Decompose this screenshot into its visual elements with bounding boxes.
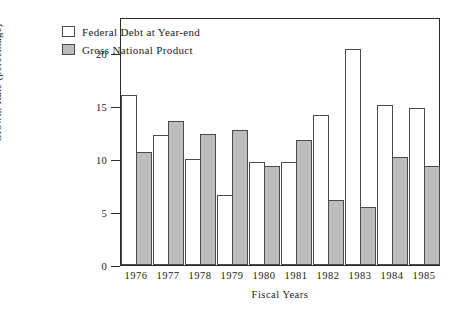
x-axis-tick-labels: 1976197719781979198019811982198319841985 bbox=[120, 270, 440, 286]
legend-item-federal-debt: Federal Debt at Year-end bbox=[62, 24, 200, 39]
bar-federal-debt-1979 bbox=[217, 195, 233, 265]
bar-group-1982 bbox=[313, 19, 344, 265]
bar-federal-debt-1985 bbox=[409, 108, 425, 265]
bar-group-1981 bbox=[281, 19, 312, 265]
x-axis-tick-label-1982: 1982 bbox=[317, 270, 340, 281]
x-axis-tick-label-1981: 1981 bbox=[285, 270, 308, 281]
y-axis-title: Growth Rate (percentage) bbox=[0, 23, 3, 142]
bar-federal-debt-1981 bbox=[281, 162, 297, 265]
x-axis-tick-label-1977: 1977 bbox=[157, 270, 180, 281]
bar-group-1980 bbox=[249, 19, 280, 265]
bar-group-1983 bbox=[345, 19, 376, 265]
x-axis-tick-label-1976: 1976 bbox=[125, 270, 148, 281]
x-axis-tick-label-1978: 1978 bbox=[189, 270, 212, 281]
legend-label-federal-debt: Federal Debt at Year-end bbox=[82, 26, 200, 38]
y-axis-tick-label: 5 bbox=[101, 208, 107, 219]
bar-federal-debt-1977 bbox=[153, 135, 169, 265]
bar-gross-national-product-1980 bbox=[264, 166, 280, 265]
x-axis-tick-label-1985: 1985 bbox=[413, 270, 436, 281]
bar-federal-debt-1984 bbox=[377, 105, 393, 265]
x-axis-tick-label-1983: 1983 bbox=[349, 270, 372, 281]
x-axis-tick-label-1980: 1980 bbox=[253, 270, 276, 281]
y-axis-tick bbox=[111, 107, 120, 108]
x-axis-tick-label-1984: 1984 bbox=[381, 270, 404, 281]
bar-group-1985 bbox=[409, 19, 440, 265]
bar-gross-national-product-1977 bbox=[168, 121, 184, 265]
bar-federal-debt-1978 bbox=[185, 159, 201, 265]
bar-gross-national-product-1978 bbox=[200, 134, 216, 265]
x-axis-title: Fiscal Years bbox=[120, 289, 440, 300]
legend-swatch-open-box-icon bbox=[62, 26, 75, 37]
bar-federal-debt-1982 bbox=[313, 115, 329, 265]
legend-label-gross-national-product: Gross National Product bbox=[82, 44, 193, 56]
y-axis-tick bbox=[111, 266, 120, 267]
bar-federal-debt-1980 bbox=[249, 162, 265, 265]
legend-swatch-filled-box-icon bbox=[62, 44, 75, 55]
bar-gross-national-product-1979 bbox=[232, 130, 248, 265]
bar-gross-national-product-1982 bbox=[328, 200, 344, 265]
x-axis-tick-label-1979: 1979 bbox=[221, 270, 244, 281]
bar-gross-national-product-1983 bbox=[360, 207, 376, 265]
y-axis-tick-label: 10 bbox=[96, 155, 107, 166]
chart-legend: Federal Debt at Year-end Gross National … bbox=[62, 24, 200, 60]
y-axis-tick bbox=[111, 213, 120, 214]
bar-gross-national-product-1976 bbox=[136, 152, 152, 265]
bar-gross-national-product-1981 bbox=[296, 140, 312, 265]
bar-federal-debt-1976 bbox=[121, 95, 137, 265]
bar-gross-national-product-1985 bbox=[424, 166, 440, 265]
y-axis-tick bbox=[111, 160, 120, 161]
y-axis-tick-label: 0 bbox=[101, 261, 107, 272]
legend-item-gross-national-product: Gross National Product bbox=[62, 42, 200, 57]
bar-group-1979 bbox=[217, 19, 248, 265]
bar-chart: 05101520 Growth Rate (percentage) Federa… bbox=[0, 0, 460, 310]
bar-group-1984 bbox=[377, 19, 408, 265]
bar-gross-national-product-1984 bbox=[392, 157, 408, 265]
bar-federal-debt-1983 bbox=[345, 49, 361, 265]
y-axis-tick-label: 15 bbox=[96, 102, 107, 113]
